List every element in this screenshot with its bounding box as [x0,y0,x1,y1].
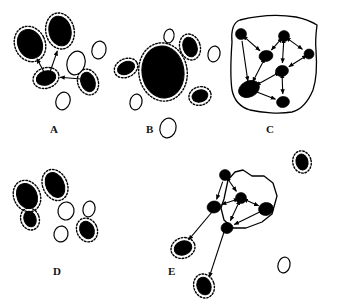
edge-c2-c4 [290,40,303,49]
cell-d4 [73,215,102,246]
cell-d2-body [41,169,68,200]
edge-c6-c7 [256,91,276,99]
panel-label-d: D [53,266,61,277]
cell-d1 [8,176,46,217]
panel-label-a: A [50,124,58,135]
cell-b7-body [128,93,143,111]
node-c7 [276,95,291,108]
panel-label-e: E [168,266,176,277]
cell-b7 [128,93,143,111]
free-cell-bottom-right-body [276,256,292,274]
panel-b-group [111,28,221,140]
panel-a-cells [9,10,109,112]
cell-b2 [111,55,141,82]
edge-c2-c5 [282,43,283,63]
node-e3 [206,200,222,214]
free-cells-group [276,149,313,274]
free-cell-top-right-body [294,153,309,171]
cell-b6 [206,45,221,63]
panel-label-b: B [146,124,154,135]
cell-b5 [163,28,176,44]
arrow-e-to-out1 [189,212,212,240]
free-cell-top-right [291,149,314,175]
node-c4 [304,49,314,59]
arrow-e-to-out2 [209,232,224,277]
node-c1 [236,29,247,40]
edge-c4-c5 [289,58,303,67]
node-e2 [236,193,247,204]
edge-c1-c3 [246,39,260,51]
cell-d5-body [57,201,76,222]
cell-a3 [30,64,61,92]
cell-a6 [90,39,108,60]
cell-a7-body [53,90,72,112]
cell-b8 [158,116,179,139]
edge-c1-c6 [242,41,248,81]
edge-e1-e3 [217,182,223,200]
node-e5 [220,222,234,235]
cell-a2 [42,10,77,52]
panel-c-nodes [236,29,315,109]
edge-c2-c3 [271,41,279,50]
panel-e-group [168,170,277,301]
cell-d6-body [81,200,96,218]
panel-e-nodes [206,170,274,235]
node-c6 [236,77,263,101]
panel-b-cells [111,28,221,140]
figure-canvas [0,0,341,304]
cell-d6 [81,200,96,218]
cell-d2 [37,165,73,205]
cell-a6-body [90,39,108,60]
edge-e2-e4 [247,201,258,206]
figure-container: ABCDE [0,0,341,304]
panel-c-group [231,16,317,113]
cell-a1 [9,21,52,67]
panel-e-outgoing [189,212,224,277]
cell-b4-body [191,88,210,104]
free-cell-bottom-right [276,256,292,274]
node-c3 [258,49,274,62]
cell-d7 [52,225,69,244]
panel-d-cells [8,165,101,245]
cell-e-out1 [168,234,198,262]
edge-e1-e2 [229,181,236,192]
cell-b5-body [163,28,176,44]
edge-e2-e5 [230,204,238,220]
cell-a7 [53,90,72,112]
edge-e4-e5 [234,212,260,224]
edge-c5-c7 [282,78,283,94]
cell-b6-body [206,45,221,63]
panel-d-group [8,165,101,245]
cell-b8-body [158,116,179,139]
edge-c5-c6 [256,74,276,85]
panel-label-c: C [266,124,274,135]
cell-d5 [57,201,76,222]
cell-b4 [187,84,213,108]
cell-d7-body [52,225,69,244]
cell-e-out2 [191,271,218,301]
node-c2 [279,31,290,42]
cell-b-large [135,40,191,105]
edge-c3-c6 [253,62,263,82]
panel-a-group [9,10,109,112]
node-c5 [275,64,290,77]
node-e1 [220,170,231,181]
